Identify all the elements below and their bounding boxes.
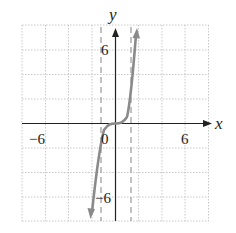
y-tick-6: 6 [101,42,109,58]
curve-arrow-top-icon [133,28,141,39]
origin-label: 0 [101,131,109,147]
y-axis-label: y [107,5,117,24]
y-tick-neg6: −6 [95,190,111,206]
x-axis-label: x [214,114,223,133]
x-axis-arrow-icon [203,120,212,127]
x-tick-neg6: −6 [29,131,45,147]
y-axis-arrow-icon [112,28,119,37]
graph: x y −6 6 6 −6 0 [0,0,236,233]
x-tick-6: 6 [181,131,189,147]
curve-arrow-bottom-icon [88,208,96,219]
